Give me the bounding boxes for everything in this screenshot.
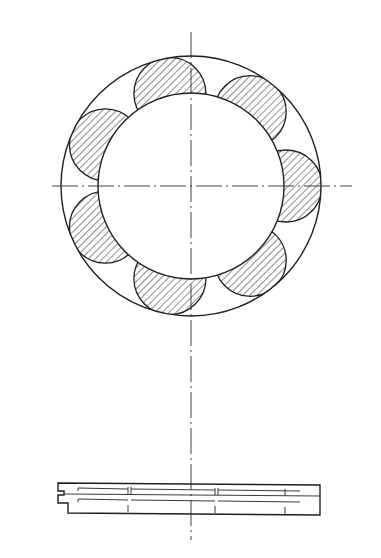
side-view: [58, 483, 320, 515]
roller-5: [69, 109, 141, 181]
roller-4: [69, 191, 141, 263]
bearing-drawing: [0, 0, 381, 558]
